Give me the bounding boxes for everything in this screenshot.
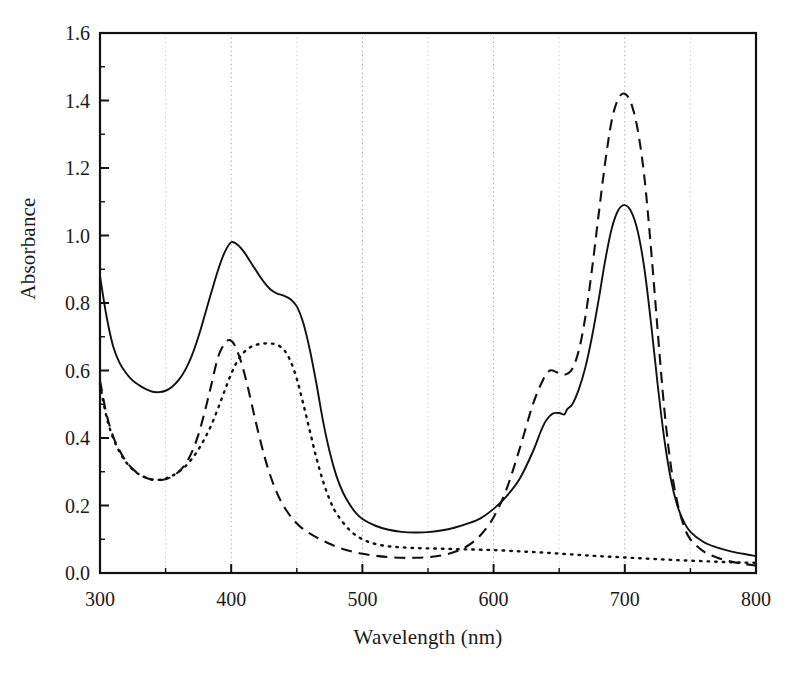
x-tick-label-400: 400 [191, 589, 271, 609]
axes-frame [100, 33, 756, 573]
x-tick-label-500: 500 [322, 589, 402, 609]
y-tick-label-0.0: 0.0 [28, 563, 90, 583]
y-tick-label-0.6: 0.6 [28, 361, 90, 381]
y-tick-label-1.4: 1.4 [28, 91, 90, 111]
x-tick-label-300: 300 [60, 589, 140, 609]
x-tick-label-800: 800 [716, 589, 796, 609]
series-line-dashed [100, 94, 756, 566]
y-tick-label-0.4: 0.4 [28, 428, 90, 448]
x-tick-label-700: 700 [585, 589, 665, 609]
y-tick-label-1.2: 1.2 [28, 158, 90, 178]
y-tick-label-0.2: 0.2 [28, 496, 90, 516]
y-tick-label-1.0: 1.0 [28, 226, 90, 246]
plot-area [0, 0, 796, 675]
spectrum-figure: Absorbance Wavelength (nm) 0.00.20.40.60… [0, 0, 796, 675]
x-tick-label-600: 600 [454, 589, 534, 609]
absorbance-spectrum-svg [0, 0, 796, 675]
y-tick-label-1.6: 1.6 [28, 23, 90, 43]
y-tick-label-0.8: 0.8 [28, 293, 90, 313]
